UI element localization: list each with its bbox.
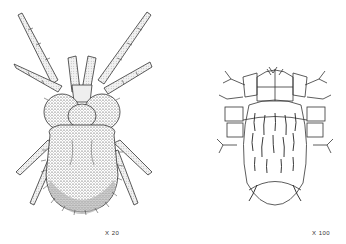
line-mite-illustration bbox=[215, 65, 335, 215]
stippled-mite-illustration bbox=[0, 0, 200, 215]
magnification-label-right: X 100 bbox=[312, 230, 330, 236]
magnification-label-left: X 20 bbox=[105, 230, 119, 236]
